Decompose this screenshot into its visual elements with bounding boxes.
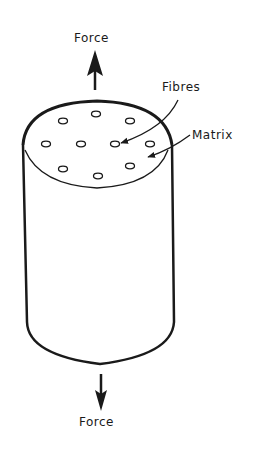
composite-diagram: Force Fibres Matrix Force [0,0,258,458]
force-down-arrow-icon [95,374,107,411]
cylinder [23,101,174,364]
fibre [111,141,120,147]
fibre [59,166,68,172]
force-top-label: Force [74,31,109,45]
matrix-label: Matrix [192,128,233,142]
fibre [94,173,103,179]
fibre [92,111,101,117]
fibre [42,141,51,147]
fibre [126,118,135,124]
fibres [42,111,155,179]
force-up-arrow-icon [87,50,103,90]
force-bottom-label: Force [79,415,114,429]
fibres-label: Fibres [162,80,200,94]
fibre [146,141,155,147]
fibre [77,141,86,147]
fibre [126,163,135,169]
fibre [59,118,68,124]
